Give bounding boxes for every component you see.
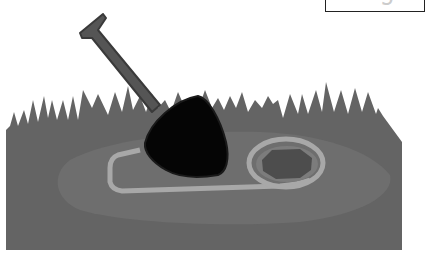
hole	[262, 149, 312, 179]
shovel-handle	[80, 14, 160, 112]
